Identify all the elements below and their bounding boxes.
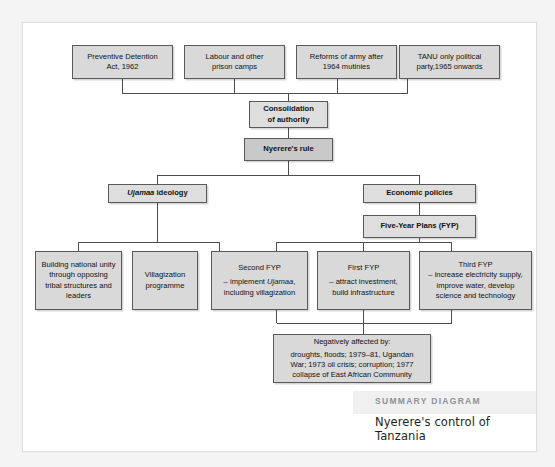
node-title: First FYP [348,263,380,273]
node-line: Nyerere's rule [263,144,313,154]
node-line: build infrastructure [332,288,394,298]
node-labour-camps: Labour and other prison camps [184,45,285,79]
node-line: collapse of East African Community [292,370,411,380]
node-line: party,1965 onwards [416,62,482,72]
node-nyereres-rule: Nyerere's rule [244,138,333,161]
node-line: Preventive Detention [87,52,158,62]
page-background: Preventive Detention Act, 1962 Labour an… [0,0,555,467]
node-economic-policies: Economic policies [363,184,476,203]
node-title: Negatively affected by: [314,337,391,347]
node-line: leaders [66,291,91,301]
node-ujamaa-ideology: Ujamaa ideology [108,184,207,203]
node-line: programme [146,281,185,291]
node-line: – attract investment, [329,277,397,287]
node-line: Ujamaa ideology [127,188,187,198]
node-second-fyp: Second FYP – implement Ujamaa, including… [211,251,308,310]
node-line-rest: ideology [154,188,187,197]
node-line: Building national unity [42,260,116,270]
node-line: tribal structures and [45,281,112,291]
node-line: Five-Year Plans (FYP) [380,221,458,231]
node-negatively-affected: Negatively affected by: droughts, floods… [273,334,431,383]
node-line-pre: – implement [224,277,267,286]
node-tanu-party: TANU only political party,1965 onwards [399,45,500,79]
node-title: Second FYP [238,263,281,273]
node-line: Consolidation [263,104,314,114]
node-army-reforms: Reforms of army after 1964 mutinies [296,45,397,79]
node-line: Labour and other [206,52,264,62]
node-line: science and technology [436,291,515,301]
node-emphasis: Ujamaa [267,277,293,286]
node-emphasis: Ujamaa [127,188,154,197]
node-line: prison camps [212,62,257,72]
node-line: of authority [268,115,310,125]
node-line: 1964 mutinies [323,62,370,72]
node-title: Third FYP [458,260,492,270]
node-national-unity: Building national unity through opposing… [35,251,122,310]
node-line: – increase electricity supply, [428,270,522,280]
summary-diagram-title: Nyerere's control of Tanzania [375,415,536,443]
node-line: through opposing [49,270,108,280]
node-line: War; 1973 oil crisis; corruption; 1977 [291,360,414,370]
node-line: TANU only political [418,52,482,62]
node-line: – implement Ujamaa, [224,277,296,287]
node-line: Act, 1962 [106,62,138,72]
node-line-post: , [293,277,295,286]
node-line: Reforms of army after [310,52,383,62]
summary-diagram-label: SUMMARY DIAGRAM [375,396,481,406]
node-line: including villagization [224,288,295,298]
node-line: improve water, develop [436,281,514,291]
diagram-sheet: Preventive Detention Act, 1962 Labour an… [22,22,537,452]
node-third-fyp: Third FYP – increase electricity supply,… [419,251,532,310]
node-five-year-plans: Five-Year Plans (FYP) [363,215,476,238]
node-first-fyp: First FYP – attract investment, build in… [317,251,410,310]
node-preventive-detention: Preventive Detention Act, 1962 [72,45,173,79]
node-villagization: Villagization programme [132,251,198,310]
node-consolidation: Consolidation of authority [249,101,328,128]
node-line: Economic policies [386,188,453,198]
node-line: droughts, floods; 1979–81, Ugandan [291,350,414,360]
node-line: Villagization [145,270,185,280]
